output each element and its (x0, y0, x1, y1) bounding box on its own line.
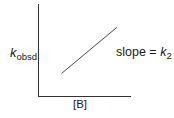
x-axis-label: [B] (73, 99, 87, 111)
series-line (62, 27, 118, 73)
y-axis-symbol: k (10, 45, 17, 60)
slope-subscript: 2 (166, 50, 171, 61)
slope-annotation: slope = k2 (116, 46, 172, 59)
y-axis-subscript: obsd (17, 51, 38, 62)
slope-prefix: slope = (116, 45, 160, 59)
y-axis-label: kobsd (10, 46, 37, 59)
